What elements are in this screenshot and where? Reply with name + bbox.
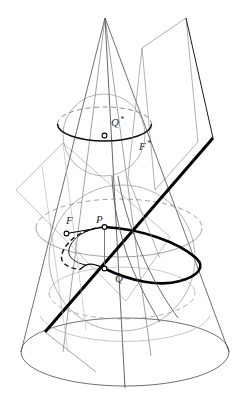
- label-p: P: [95, 213, 103, 225]
- label-q-star-asterisk: *: [120, 115, 124, 124]
- label-f-star-asterisk: *: [147, 139, 151, 148]
- label-f-star: F: [138, 140, 146, 152]
- label-q: Q: [115, 272, 123, 284]
- point-p: [102, 225, 107, 230]
- focal-radius-segment-icon: [67, 227, 105, 234]
- dandelin-sphere-figure: Q * F * F P Q: [0, 0, 252, 409]
- cone-cross-section-icon: [40, 316, 210, 341]
- point-q: [102, 266, 107, 271]
- figure-canvas: Q * F * F P Q: [0, 0, 252, 409]
- conic-section-curve-icon: [61, 227, 200, 283]
- point-f: [64, 231, 69, 236]
- label-f: F: [65, 214, 73, 226]
- ruling-lines-icon: [112, 176, 178, 322]
- label-q-star: Q: [111, 116, 119, 128]
- left-plane-lines-icon: [42, 143, 86, 352]
- point-q-star: [102, 133, 107, 138]
